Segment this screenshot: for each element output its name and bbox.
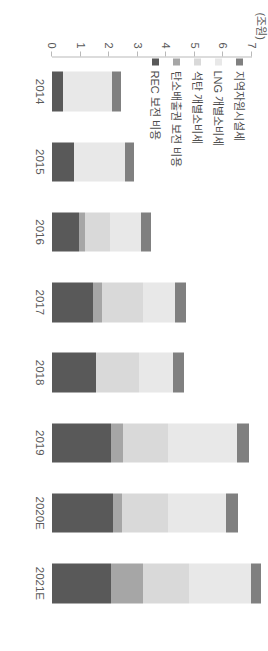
bar-segment <box>52 563 111 602</box>
rotated-chart-canvas: 지역자원시설세LNG 개별소비세석탄 개별소비세탄소배출권 보전 비용REC 보… <box>0 0 266 651</box>
value-axis-tick-label: 2 <box>103 42 115 48</box>
value-axis-tick-label: 3 <box>132 42 144 48</box>
bar-group <box>52 563 252 602</box>
bar-segment <box>102 282 143 321</box>
bar-segment <box>143 282 174 321</box>
category-axis-label: 2020E <box>34 478 46 548</box>
bar-segment <box>112 71 121 110</box>
bar-segment <box>52 493 113 532</box>
bar-segment <box>168 493 227 532</box>
value-axis-tick <box>251 51 252 56</box>
bar-segment <box>189 563 252 602</box>
bar-segment <box>226 493 237 532</box>
bar-segment <box>143 563 189 602</box>
bar-segment <box>141 212 151 251</box>
bar-segment <box>139 352 173 391</box>
value-axis-tick <box>137 51 138 56</box>
value-axis-tick <box>194 51 195 56</box>
value-axis-tick <box>51 51 52 56</box>
bar-segment <box>52 142 74 181</box>
bar-segment <box>175 282 186 321</box>
bar-segment <box>168 423 237 462</box>
bar-segment <box>122 493 168 532</box>
value-axis-tick <box>108 51 109 56</box>
category-axis-label: 2015 <box>34 126 46 196</box>
bar-segment <box>52 352 96 391</box>
plot-area: (조원) 01234567 20142015201620172018201920… <box>52 56 252 618</box>
bar-group <box>52 71 252 110</box>
bar-segment <box>173 352 184 391</box>
category-axis-label: 2017 <box>34 267 46 337</box>
bar-group <box>52 493 252 532</box>
bar-group <box>52 212 252 251</box>
bar-segment <box>96 352 139 391</box>
bar-group <box>52 352 252 391</box>
bar-group <box>52 282 252 321</box>
chart-screenshot: 지역자원시설세LNG 개별소비세석탄 개별소비세탄소배출권 보전 비용REC 보… <box>0 0 266 651</box>
bar-segment <box>52 212 79 251</box>
value-axis-tick <box>165 51 166 56</box>
bar-segment <box>52 423 111 462</box>
bar-segment <box>123 423 169 462</box>
category-axis-label: 2019 <box>34 407 46 477</box>
value-axis-tick-label: 4 <box>160 42 172 48</box>
bar-segment <box>251 563 260 602</box>
bar-segment <box>74 142 125 181</box>
value-axis-tick-label: 7 <box>246 42 258 48</box>
bar-segment <box>111 563 142 602</box>
bar-group <box>52 142 252 181</box>
bar-segment <box>125 142 134 181</box>
bar-segment <box>110 212 141 251</box>
category-axis-label: 2018 <box>34 337 46 407</box>
bar-segment <box>52 282 93 321</box>
bar-segment <box>52 71 63 110</box>
category-axis-label: 2014 <box>34 56 46 126</box>
bar-segment <box>111 423 123 462</box>
value-axis-unit-label: (조원) <box>254 12 266 39</box>
bar-group <box>52 423 252 462</box>
category-axis-label: 2016 <box>34 197 46 267</box>
category-axis-label: 2021E <box>34 548 46 618</box>
bar-segment <box>237 423 249 462</box>
bar-segment <box>63 71 112 110</box>
value-axis-tick-label: 6 <box>217 42 229 48</box>
bar-segment <box>85 212 109 251</box>
value-axis-tick-label: 5 <box>189 42 201 48</box>
value-axis-tick-label: 1 <box>75 42 87 48</box>
bar-segment <box>113 493 122 532</box>
bar-segment <box>93 282 102 321</box>
value-axis-tick <box>222 51 223 56</box>
value-axis-tick-label: 0 <box>46 42 58 48</box>
value-axis-tick <box>80 51 81 56</box>
